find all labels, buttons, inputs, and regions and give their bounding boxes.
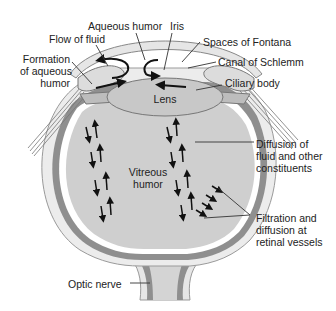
label-canal-of-schlemm: Canal of Schlemm bbox=[218, 56, 304, 68]
label-flow-of-fluid: Flow of fluid bbox=[49, 33, 105, 45]
label-filtration: Filtration and diffusion at retinal vess… bbox=[256, 212, 323, 248]
label-vitreous-humor: Vitreous humor bbox=[118, 166, 178, 190]
label-formation-of-aqueous-humor: Formation of aqueous humor bbox=[20, 53, 70, 89]
label-spaces-of-fontana: Spaces of Fontana bbox=[203, 36, 291, 48]
label-lens: Lens bbox=[140, 93, 190, 105]
label-optic-nerve: Optic nerve bbox=[68, 278, 122, 290]
label-ciliary-body: Ciliary body bbox=[225, 77, 280, 89]
label-diffusion: Diffusion of fluid and other constituent… bbox=[256, 138, 323, 174]
label-aqueous-humor: Aqueous humor bbox=[88, 20, 162, 32]
label-iris: Iris bbox=[170, 20, 184, 32]
